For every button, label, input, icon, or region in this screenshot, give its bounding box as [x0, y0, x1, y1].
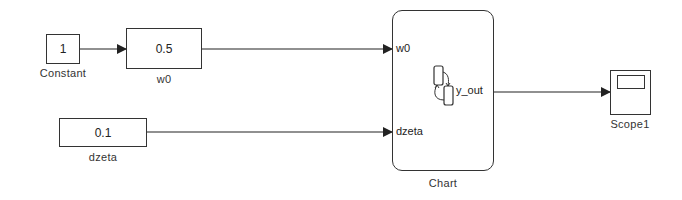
stateflow-icon — [428, 62, 458, 110]
w0-block[interactable]: 0.5 — [126, 28, 202, 69]
chart-input-port-dzeta: dzeta — [396, 125, 423, 137]
signal-lines — [0, 0, 682, 200]
dzeta-label: dzeta — [73, 151, 133, 163]
dzeta-value: 0.1 — [95, 126, 112, 140]
chart-output-port-y-out: y_out — [456, 84, 483, 96]
dzeta-block[interactable]: 0.1 — [59, 118, 147, 147]
chart-input-port-w0: w0 — [396, 42, 410, 54]
scope-label: Scope1 — [600, 118, 660, 130]
scope-block[interactable] — [610, 70, 651, 115]
w0-label: w0 — [134, 73, 194, 85]
constant-value: 1 — [60, 42, 67, 56]
scope-screen-icon — [617, 75, 645, 89]
constant-label: Constant — [33, 67, 93, 79]
constant-block[interactable]: 1 — [46, 34, 80, 64]
chart-label: Chart — [413, 177, 473, 189]
w0-value: 0.5 — [156, 42, 173, 56]
